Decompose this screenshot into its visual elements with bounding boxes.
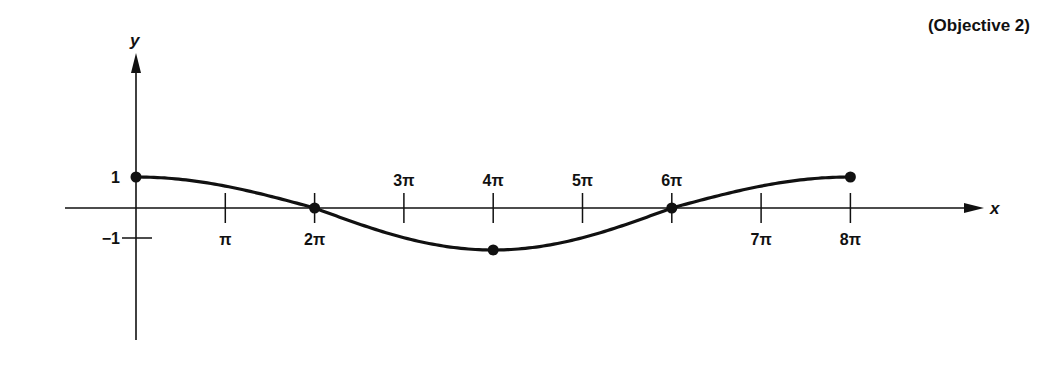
- x-tick-label: 3π: [393, 172, 414, 189]
- x-tick-label: 8π: [840, 231, 861, 248]
- x-tick-label: 4π: [483, 172, 504, 189]
- y-axis-arrow-icon: [131, 53, 141, 73]
- data-point: [309, 203, 320, 214]
- data-point: [488, 245, 499, 256]
- data-point: [845, 172, 856, 183]
- x-axis-arrow-icon: [964, 203, 984, 213]
- x-axis-label: x: [989, 199, 1001, 218]
- axes: xy: [65, 31, 1001, 340]
- y-tick-label: 1: [111, 169, 120, 186]
- x-tick-label: 7π: [751, 231, 772, 248]
- data-point: [131, 172, 142, 183]
- x-tick-label: 5π: [572, 172, 593, 189]
- x-tick-label: 2π: [304, 231, 325, 248]
- cosine-graph: xy π2π3π4π5π6π7π8π1−1: [0, 0, 1053, 365]
- data-point: [666, 203, 677, 214]
- x-tick-label: 6π: [661, 172, 682, 189]
- y-tick-label: −1: [102, 230, 120, 247]
- x-tick-label: π: [219, 231, 231, 248]
- y-axis-label: y: [129, 31, 141, 50]
